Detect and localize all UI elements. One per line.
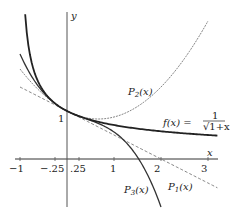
x-tick-label: .25 — [70, 163, 86, 174]
x-axis-label: x — [207, 147, 213, 158]
y-tick-label-1: 1 — [58, 113, 64, 124]
x-tick-label: −1 — [9, 163, 24, 174]
x-tick-label: 2 — [154, 163, 160, 174]
svg-text:1: 1 — [212, 110, 218, 121]
svg-text:√1+x: √1+x — [203, 121, 230, 132]
p3-label: P3(x) — [123, 184, 149, 197]
p2-label: P2(x) — [127, 86, 153, 99]
p1-label: P1(x) — [167, 181, 193, 194]
x-tick-label: 1 — [110, 163, 116, 174]
svg-text:P1(x): P1(x) — [167, 181, 193, 194]
y-axis-label: y — [70, 10, 77, 21]
x-tick-label: −.25 — [40, 163, 64, 174]
svg-text:P2(x): P2(x) — [127, 86, 153, 99]
x-tick-label: 3 — [201, 163, 207, 174]
svg-text:P3(x): P3(x) — [123, 184, 149, 197]
f-label: f(x) = 1 √1+x — [162, 110, 230, 132]
svg-text:f(x) =: f(x) = — [162, 117, 192, 128]
taylor-approximation-diagram: y x 1 −1 −.25 .25 1 2 3 P2(x) f(x) = 1 √… — [0, 0, 240, 220]
p2-curve — [20, 21, 208, 119]
